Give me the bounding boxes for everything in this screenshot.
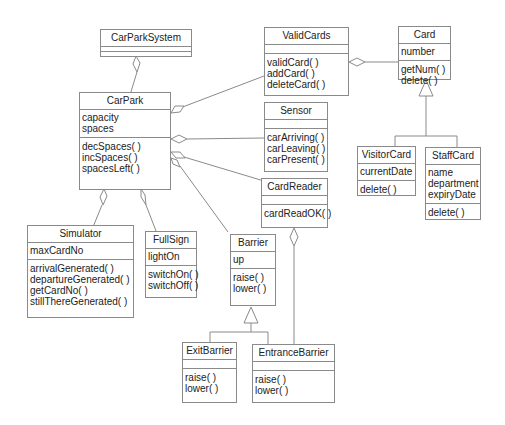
operation: carPresent( ) <box>267 154 325 165</box>
class-name: StaffCard <box>426 148 480 165</box>
aggregation-diamond-icon <box>141 189 146 205</box>
attribute: capacity <box>82 112 168 123</box>
class-name: FullSign <box>146 232 196 249</box>
class-entrancebarrier: EntranceBarrier raise( ) lower( ) <box>252 344 335 403</box>
operation: raise( ) <box>233 272 273 283</box>
aggregation-diamond-icon <box>133 56 140 72</box>
class-attributes <box>265 120 327 129</box>
class-simulator: Simulator maxCardNo arrivalGenerated( ) … <box>27 225 134 318</box>
operation: carArriving( ) <box>267 132 325 143</box>
class-attributes: currentDate <box>358 164 415 181</box>
class-attributes <box>253 362 334 371</box>
class-name: Sensor <box>265 103 327 120</box>
class-name: Card <box>399 27 450 44</box>
operation: carLeaving( ) <box>267 143 325 154</box>
class-attributes: maxCardNo <box>28 243 133 260</box>
aggregation-diamond-icon <box>349 58 365 66</box>
operation: decSpaces( ) <box>82 141 168 152</box>
class-name: Simulator <box>28 226 133 243</box>
class-operations: getNum( ) delete( ) <box>399 61 450 88</box>
class-name: CarPark <box>80 93 170 110</box>
class-name: CarParkSystem <box>101 30 191 47</box>
operation: departureGenerated( ) <box>30 274 131 285</box>
operation: lower( ) <box>185 383 234 394</box>
class-name: ValidCards <box>265 28 348 45</box>
operation: lower( ) <box>233 283 273 294</box>
class-staffcard: StaffCard name department expiryDate del… <box>425 147 481 220</box>
operation: delete( ) <box>360 184 413 195</box>
class-attributes: name department expiryDate <box>426 165 480 204</box>
operation: switchOff( ) <box>148 280 194 291</box>
class-attributes: lightOn <box>146 249 196 266</box>
class-name: ExitBarrier <box>183 343 236 360</box>
class-operations: carArriving( ) carLeaving( ) carPresent(… <box>265 129 327 167</box>
attribute: currentDate <box>360 166 413 177</box>
operation: arrivalGenerated( ) <box>30 263 131 274</box>
operation: getNum( ) <box>401 64 448 75</box>
class-attributes: capacity spaces <box>80 110 170 138</box>
class-attributes <box>183 360 236 369</box>
class-barrier: Barrier up raise( ) lower( ) <box>230 234 276 306</box>
class-operations: validCard( ) addCard( ) deleteCard( ) <box>265 54 348 92</box>
aggregation-diamond-icon <box>290 228 298 246</box>
class-attributes <box>265 45 348 54</box>
class-operations: switchOn( ) switchOff( ) <box>146 266 196 293</box>
operation: delete( ) <box>428 207 478 218</box>
aggregation-diamond-icon <box>171 106 184 113</box>
attribute: lightOn <box>148 251 194 262</box>
operation: switchOn( ) <box>148 269 194 280</box>
operation: getCardNo( ) <box>30 285 131 296</box>
attribute: department <box>428 178 478 189</box>
aggregation-diamond-icon <box>171 135 187 143</box>
operation: incSpaces( ) <box>82 152 168 163</box>
class-name: EntranceBarrier <box>253 345 334 362</box>
class-operations <box>101 52 191 54</box>
class-card: Card number getNum( ) delete( ) <box>398 26 451 80</box>
class-operations: cardReadOK( ) <box>262 205 327 221</box>
class-validcards: ValidCards validCard( ) addCard( ) delet… <box>264 27 349 96</box>
aggregation-diamond-icon <box>100 189 107 205</box>
class-cardreader: CardReader cardReadOK( ) <box>261 178 328 228</box>
operation: validCard( ) <box>267 57 346 68</box>
class-operations: arrivalGenerated( ) departureGenerated( … <box>28 260 133 309</box>
operation: stillThereGenerated( ) <box>30 296 131 307</box>
class-visitorcard: VisitorCard currentDate delete( ) <box>357 146 416 196</box>
attribute: expiryDate <box>428 189 478 200</box>
class-exitbarrier: ExitBarrier raise( ) lower( ) <box>182 342 237 403</box>
class-fullsign: FullSign lightOn switchOn( ) switchOff( … <box>145 231 197 298</box>
class-operations: delete( ) <box>358 181 415 197</box>
class-carpark: CarPark capacity spaces decSpaces( ) inc… <box>79 92 171 190</box>
operation: raise( ) <box>255 374 332 385</box>
generalization-triangle-icon <box>244 307 258 323</box>
operation: raise( ) <box>185 372 234 383</box>
class-operations: decSpaces( ) incSpaces( ) spacesLeft( ) <box>80 138 170 176</box>
operation: spacesLeft( ) <box>82 163 168 174</box>
operation: delete( ) <box>401 75 448 86</box>
class-operations: delete( ) <box>426 204 480 220</box>
class-attributes <box>262 196 327 205</box>
attribute: name <box>428 167 478 178</box>
class-sensor: Sensor carArriving( ) carLeaving( ) carP… <box>264 102 328 172</box>
operation: cardReadOK( ) <box>264 208 325 219</box>
class-attributes: number <box>399 44 450 61</box>
attribute: maxCardNo <box>30 245 131 256</box>
operation: deleteCard( ) <box>267 79 346 90</box>
class-attributes: up <box>231 252 275 269</box>
class-operations: raise( ) lower( ) <box>231 269 275 296</box>
class-name: VisitorCard <box>358 147 415 164</box>
attribute: spaces <box>82 123 168 134</box>
aggregation-diamond-icon <box>171 158 180 167</box>
class-operations: raise( ) lower( ) <box>183 369 236 396</box>
class-name: Barrier <box>231 235 275 252</box>
operation: addCard( ) <box>267 68 346 79</box>
operation: lower( ) <box>255 385 332 396</box>
class-operations: raise( ) lower( ) <box>253 371 334 398</box>
class-carparksystem: CarParkSystem <box>100 29 192 57</box>
attribute: number <box>401 46 448 57</box>
class-name: CardReader <box>262 179 327 196</box>
attribute: up <box>233 254 273 265</box>
aggregation-diamond-icon <box>171 152 185 158</box>
